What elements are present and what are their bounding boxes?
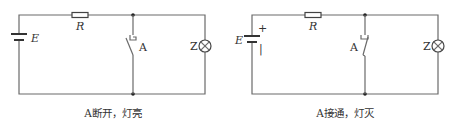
resistor-label: R [75, 20, 84, 33]
wire-bottom [19, 41, 205, 94]
resistor-icon [305, 13, 321, 18]
battery-icon [11, 34, 27, 40]
caption: A断开，灯亮 [83, 107, 142, 119]
switch-closed-icon [361, 15, 368, 94]
lamp-label: Z [190, 40, 198, 53]
caption: A接通，灯灭 [315, 107, 375, 119]
battery-label: E [30, 32, 39, 45]
switch-open-icon [126, 15, 136, 94]
wire-bottom [252, 43, 438, 94]
lamp-icon [199, 40, 211, 52]
wire-top-right [88, 15, 205, 40]
resistor-icon [72, 13, 88, 18]
switch-label: A [138, 41, 148, 54]
circuit-diagrams: E R A Z A断开，灯亮 [0, 0, 454, 129]
right-circuit: + | E R A Z A接通，灯灭 [234, 13, 444, 120]
lamp-label: Z [423, 40, 431, 53]
battery-icon [244, 36, 260, 42]
resistor-label: R [308, 20, 317, 33]
switch-label: A [349, 41, 359, 54]
lamp-icon [432, 40, 444, 52]
wire-top-left [19, 15, 72, 33]
battery-label: E [234, 34, 243, 47]
battery-plus-sign: + [258, 22, 267, 35]
left-circuit: E R A Z A断开，灯亮 [11, 13, 211, 120]
battery-minus-sign: | [259, 42, 263, 56]
wire-top-right [321, 15, 438, 40]
